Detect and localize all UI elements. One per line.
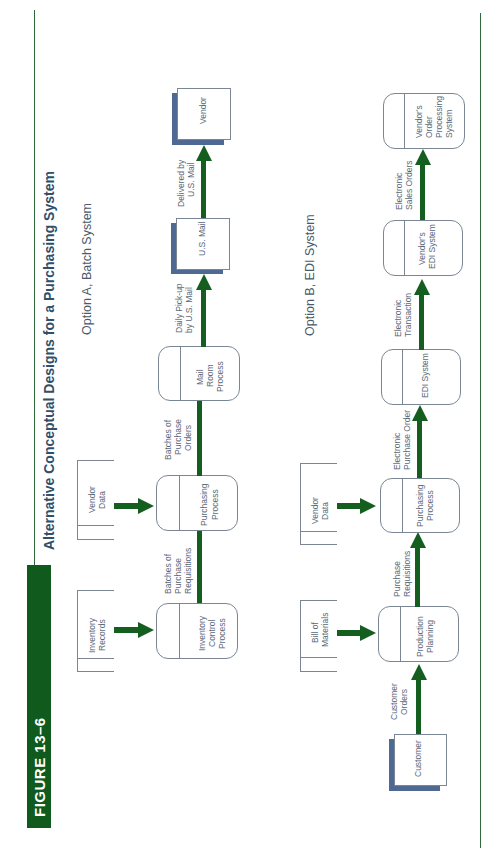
external-entity-customer: Customer	[389, 734, 447, 791]
flow-label: Customer	[389, 683, 399, 720]
flow-label: Daily Pick-up	[174, 283, 184, 333]
right-frame-line	[480, 13, 481, 848]
flow-arrow-vendor-data-a	[114, 503, 139, 509]
process-edi-system: EDI System	[381, 349, 461, 405]
flow-label: Transaction	[403, 293, 413, 337]
store-label: Records	[97, 619, 107, 651]
flow-label: Purchase Order	[402, 410, 412, 470]
process-label: Vendor's	[414, 105, 424, 138]
process-label: Process	[215, 361, 225, 392]
process-label: Planning	[425, 620, 435, 653]
figure-tag: FIGURE 13–6	[27, 565, 51, 828]
arrowhead-up-icon	[415, 149, 431, 165]
process-label: Room	[205, 364, 215, 387]
external-entity-us-mail: U.S. Mail	[171, 218, 231, 274]
flow-label: Requisitions	[183, 548, 193, 594]
store-label: Materials	[320, 613, 330, 647]
process-inventory-control: Inventory Control Process	[156, 603, 238, 659]
flow-arrow-purchase-requisitions-a	[197, 527, 202, 603]
process-label: Control	[207, 620, 217, 647]
process-label: Inventory	[197, 616, 207, 651]
flow-arrow-inventory-records	[114, 627, 139, 633]
flow-arrow-purchase-orders-a	[197, 396, 202, 476]
arrowhead-up-icon	[196, 274, 212, 290]
flow-label: Electronic	[393, 300, 403, 337]
flow-label: Electronic	[394, 173, 404, 210]
flow-label: Purchase	[173, 419, 183, 455]
store-label: Vendor	[310, 497, 320, 524]
process-label: Order	[424, 116, 434, 138]
process-label: EDI System	[427, 224, 437, 269]
arrowhead-right-icon	[360, 498, 376, 514]
data-store-vendor-data-b: Vendor Data	[300, 463, 337, 545]
external-label: U.S. Mail	[197, 222, 207, 256]
arrowhead-up-icon	[412, 405, 428, 421]
flow-arrow-electronic-transaction	[419, 292, 424, 350]
option-a-title: Option A, Batch System	[80, 203, 94, 335]
external-label: Customer	[413, 740, 423, 777]
process-label: Purchasing	[415, 484, 425, 527]
process-label: System	[444, 110, 454, 138]
data-store-vendor-data-a: Vendor Data	[77, 460, 114, 540]
flow-arrow-electronic-purchase-order	[417, 418, 422, 478]
process-label: Vendor's	[417, 232, 427, 265]
flow-arrow-electronic-sales-orders	[420, 162, 425, 220]
process-vendors-edi-system: Vendor's EDI System	[383, 220, 463, 276]
store-label: Vendor	[87, 486, 97, 513]
figure-title: Alternative Conceptual Designs for a Pur…	[41, 171, 57, 550]
flow-arrow-customer-orders	[416, 677, 421, 735]
process-vendors-order-processing: Vendor's Order Processing System	[383, 93, 465, 149]
arrowhead-up-icon	[411, 664, 427, 680]
data-store-bill-of-materials: Bill of Materials	[300, 600, 337, 672]
flow-label: Batches of	[163, 554, 173, 594]
arrowhead-right-icon	[360, 625, 376, 641]
process-label: Purchasing	[199, 483, 209, 526]
flow-label: Electronic	[392, 433, 402, 470]
process-label: Mail	[195, 369, 205, 385]
process-label: Processing	[434, 96, 444, 138]
arrowhead-right-icon	[138, 498, 154, 514]
flow-arrow-purchase-requisitions-b	[415, 545, 420, 607]
process-label: Process	[425, 490, 435, 521]
flow-label: Orders	[399, 689, 409, 715]
process-label: Process	[217, 618, 227, 649]
process-mail-room: Mail Room Process	[158, 346, 240, 401]
flow-arrow-vendor-data-b	[337, 503, 361, 509]
flow-label: Sales Orders	[404, 160, 414, 210]
arrowhead-right-icon	[138, 622, 154, 638]
flow-label: Purchase	[173, 558, 183, 594]
flow-label: Batches of	[163, 420, 173, 460]
arrowhead-up-icon	[196, 145, 212, 161]
option-b-title: Option B, EDI System	[303, 214, 317, 336]
flow-arrow-delivered-by-mail	[201, 158, 206, 218]
store-label: Inventory	[87, 618, 97, 653]
flow-label: Requisitions	[402, 551, 412, 597]
arrowhead-up-icon	[414, 279, 430, 295]
left-frame-line	[34, 10, 35, 565]
external-entity-vendor: Vendor	[172, 88, 232, 145]
process-label: Production	[415, 616, 425, 657]
flow-label: Purchase	[392, 561, 402, 597]
external-label: Vendor	[198, 97, 208, 124]
flow-arrow-bill-of-materials	[337, 630, 361, 636]
store-label: Data	[320, 502, 330, 520]
flow-label: Orders	[183, 425, 193, 451]
process-label: Process	[210, 489, 220, 520]
process-purchasing-a: Purchasing Process	[156, 475, 238, 531]
flow-label: Delivered by	[176, 160, 186, 207]
process-label: EDI System	[420, 353, 430, 398]
data-store-inventory-records: Inventory Records	[77, 590, 114, 672]
flow-label: U.S. Mail	[186, 163, 196, 197]
process-purchasing-b: Purchasing Process	[380, 478, 460, 533]
store-label: Bill of	[310, 622, 320, 643]
figure-tag-text: FIGURE 13–6	[31, 717, 48, 817]
process-production-planning: Production Planning	[378, 606, 459, 662]
arrowhead-up-icon	[410, 532, 426, 548]
flow-label: by U.S. Mail	[184, 287, 194, 333]
flow-arrow-daily-pickup	[201, 287, 206, 347]
store-label: Data	[97, 491, 107, 509]
